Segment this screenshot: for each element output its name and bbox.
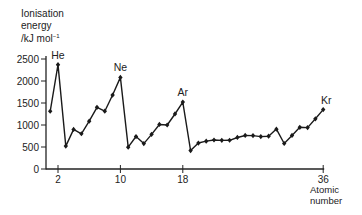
x-tick-label: 18 [177, 174, 189, 185]
element-label-ar: Ar [178, 86, 189, 98]
data-point-marker [235, 135, 239, 140]
x-axis-label: Atomic number [310, 184, 342, 206]
element-label-he: He [51, 49, 65, 61]
data-point-marker [251, 133, 255, 138]
y-label-line-2: energy [21, 20, 64, 32]
data-point-marker [48, 109, 52, 114]
data-point-marker [204, 139, 208, 144]
element-label-ne: Ne [114, 61, 128, 73]
data-point-marker [243, 133, 247, 138]
y-label-line-3: /kJ mol−1 [21, 31, 64, 45]
data-point-marker [227, 138, 231, 143]
y-label-line-1: Ionisation [21, 8, 64, 20]
y-tick-label: 1000 [17, 120, 40, 131]
data-point-marker [220, 138, 224, 143]
x-tick-label: 2 [55, 174, 61, 185]
y-tick-label: 2500 [17, 54, 40, 65]
y-tick-label: 1500 [17, 98, 40, 109]
data-point-marker [259, 134, 263, 139]
y-tick-label: 500 [22, 142, 39, 153]
x-label-line-2: number [310, 195, 342, 206]
x-label-line-1: Atomic [310, 184, 342, 195]
element-label-kr: Kr [321, 94, 332, 106]
data-line [50, 65, 323, 151]
y-tick-label: 0 [33, 164, 39, 175]
data-point-marker [212, 137, 216, 142]
ionisation-energy-chart: Ionisation energy /kJ mol−1 Atomic numbe… [0, 0, 362, 215]
y-tick-label: 2000 [17, 76, 40, 87]
x-tick-label: 10 [115, 174, 127, 185]
data-point-marker [56, 62, 60, 67]
y-axis-label: Ionisation energy /kJ mol−1 [21, 8, 64, 45]
